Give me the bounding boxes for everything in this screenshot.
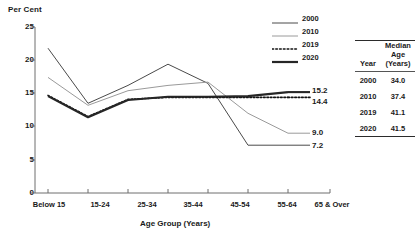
table-header-row: Year Median Age (Years) [355, 41, 415, 71]
y-axis-ticks [31, 27, 35, 193]
table-row: 2020 41.5 [355, 120, 415, 136]
data-label-2019-end: 14.4 [312, 97, 328, 106]
legend-item-2019[interactable]: 2019 [272, 38, 342, 51]
header-median-line1: Median [385, 41, 411, 50]
column-header-year: Year [355, 41, 381, 71]
column-header-median-age: Median Age (Years) [381, 41, 415, 71]
header-median-line2: Age [391, 50, 405, 59]
table-row: 2019 41.1 [355, 104, 415, 120]
line-swatch-dotted-icon [272, 40, 298, 50]
table-row: 2000 34.0 [355, 72, 415, 88]
legend-label-2019: 2019 [302, 40, 319, 49]
legend-label-2000: 2000 [302, 14, 319, 23]
cell-year-2010: 2010 [355, 88, 381, 104]
x-axis-ticks [48, 189, 330, 193]
chart-page: Per Cent Age Group (Years) 25 20 15 10 5… [0, 0, 418, 237]
median-age-table: Year Median Age (Years) 2000 34.0 2010 [355, 40, 415, 137]
cell-year-2000: 2000 [355, 72, 381, 88]
series-line-2010 [48, 77, 288, 133]
cell-median-age-2020: 41.5 [381, 120, 415, 136]
data-label-2010-end: 9.0 [312, 128, 323, 137]
data-label-2020-end: 15.2 [312, 86, 328, 95]
cell-median-age-2000: 34.0 [381, 72, 415, 88]
legend-label-2020: 2020 [302, 53, 319, 62]
table-bottom-rule [355, 136, 415, 137]
cell-year-2019: 2019 [355, 104, 381, 120]
data-label-2000-end: 7.2 [312, 141, 323, 150]
legend-item-2000[interactable]: 2000 [272, 12, 342, 25]
legend-item-2020[interactable]: 2020 [272, 51, 342, 64]
legend-label-2010: 2010 [302, 27, 319, 36]
series-line-2020 [48, 92, 288, 117]
cell-year-2020: 2020 [355, 120, 381, 136]
legend-item-2010[interactable]: 2010 [272, 25, 342, 38]
chart-legend: 2000 2010 2019 2020 [272, 12, 342, 64]
line-swatch-solid-thin-icon [272, 14, 298, 24]
table-row: 2010 37.4 [355, 88, 415, 104]
line-swatch-solid-thick-icon [272, 53, 298, 63]
header-median-line3: (Years) [385, 59, 410, 68]
cell-median-age-2019: 41.1 [381, 104, 415, 120]
line-swatch-solid-light-icon [272, 27, 298, 37]
cell-median-age-2010: 37.4 [381, 88, 415, 104]
